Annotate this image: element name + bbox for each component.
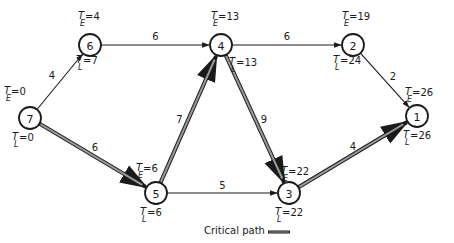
svg-text:=0: =0 xyxy=(11,86,26,97)
svg-text:L: L xyxy=(142,215,146,224)
node-3-te-label: TE=22 xyxy=(281,165,309,183)
node-1: 1TE=26TL=26 xyxy=(403,86,433,147)
edge-weight-6-4: 6 xyxy=(152,31,158,42)
svg-text:=13: =13 xyxy=(218,11,239,22)
network-canvas: 466756924 7TE=0TL=06TE=4TL=75TE=6TL=64TE… xyxy=(0,0,454,243)
node-2-label: 2 xyxy=(350,40,357,53)
svg-text:=26: =26 xyxy=(410,130,431,141)
node-5-tl-label: TL=6 xyxy=(140,206,162,224)
svg-text:=19: =19 xyxy=(349,11,370,22)
edge-4-3: 9 xyxy=(226,55,284,182)
svg-text:L: L xyxy=(405,138,409,147)
node-2-tl-label: TL=24 xyxy=(333,54,361,72)
edge-weight-7-6: 4 xyxy=(49,70,55,81)
edge-5-3: 5 xyxy=(167,180,277,194)
svg-text:L: L xyxy=(14,140,18,149)
node-1-te-label: TE=26 xyxy=(405,86,433,104)
svg-text:L: L xyxy=(335,63,339,72)
activity-network-diagram: 466756924 7TE=0TL=06TE=4TL=75TE=6TL=64TE… xyxy=(0,0,454,243)
node-7: 7TE=0TL=0 xyxy=(4,85,41,149)
node-6-label: 6 xyxy=(87,40,94,53)
edge-weight-7-5: 6 xyxy=(92,142,98,153)
edge-4-2: 6 xyxy=(232,31,341,46)
node-7-label: 7 xyxy=(27,113,34,126)
node-4: 4TE=13TL=13 xyxy=(210,10,257,74)
svg-text:=6: =6 xyxy=(143,163,158,174)
svg-text:=7: =7 xyxy=(83,55,98,66)
node-3: 3TE=22TL=22 xyxy=(275,165,309,224)
svg-text:=24: =24 xyxy=(340,55,361,66)
edge-6-4: 6 xyxy=(101,31,209,46)
edge-weight-4-3: 9 xyxy=(261,114,267,125)
svg-text:=13: =13 xyxy=(236,57,257,68)
svg-text:=0: =0 xyxy=(19,132,34,143)
edge-5-4: 7 xyxy=(160,56,216,183)
edge-3-1: 4 xyxy=(298,122,406,187)
node-5-label: 5 xyxy=(153,188,160,201)
node-5-te-label: TE=6 xyxy=(136,162,158,180)
edge-2-1: 2 xyxy=(360,53,409,107)
svg-text:L: L xyxy=(277,215,281,224)
edge-weight-2-1: 2 xyxy=(390,71,396,82)
legend-critical-path-label: Critical path xyxy=(204,225,265,236)
node-7-te-label: TE=0 xyxy=(4,85,26,103)
node-4-tl-label: TL=13 xyxy=(229,56,257,74)
svg-text:=26: =26 xyxy=(412,87,433,98)
edge-weight-5-4: 7 xyxy=(176,114,182,125)
edge-7-5: 6 xyxy=(39,124,145,187)
svg-text:L: L xyxy=(231,65,235,74)
edge-weight-5-3: 5 xyxy=(219,180,225,191)
nodes-layer: 7TE=0TL=06TE=4TL=75TE=6TL=64TE=13TL=133T… xyxy=(4,10,433,224)
svg-text:=4: =4 xyxy=(85,11,100,22)
node-7-tl-label: TL=0 xyxy=(12,131,34,149)
node-5: 5TE=6TL=6 xyxy=(136,162,167,224)
node-6-tl-label: TL=7 xyxy=(76,54,98,72)
node-2-te-label: TE=19 xyxy=(342,10,370,28)
node-3-label: 3 xyxy=(286,188,293,201)
node-4-label: 4 xyxy=(218,40,225,53)
node-3-tl-label: TL=22 xyxy=(275,206,303,224)
node-1-label: 1 xyxy=(414,111,421,124)
node-6: 6TE=4TL=7 xyxy=(76,10,101,72)
edge-weight-4-2: 6 xyxy=(284,31,290,42)
node-1-tl-label: TL=26 xyxy=(403,129,431,147)
svg-text:=22: =22 xyxy=(282,207,303,218)
svg-text:=6: =6 xyxy=(147,207,162,218)
node-2: 2TE=19TL=24 xyxy=(333,10,370,72)
legend: Critical path xyxy=(204,225,290,236)
svg-text:L: L xyxy=(78,63,82,72)
node-4-te-label: TE=13 xyxy=(211,10,239,28)
edge-weight-3-1: 4 xyxy=(350,141,356,152)
svg-text:=22: =22 xyxy=(288,166,309,177)
node-6-te-label: TE=4 xyxy=(78,10,100,28)
